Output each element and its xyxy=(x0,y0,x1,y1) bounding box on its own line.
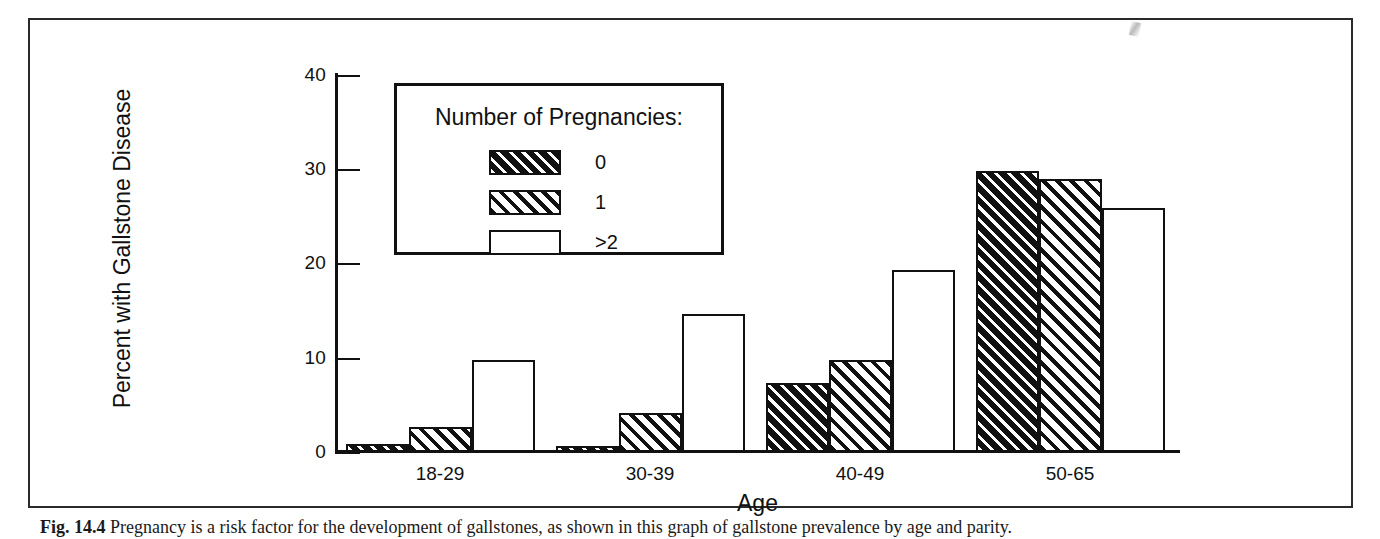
bar-18-29-series-0 xyxy=(346,444,409,452)
figure-caption-number: Fig. 14.4 xyxy=(40,517,106,537)
bar-40-49-series-0 xyxy=(766,383,829,452)
legend-swatch-0 xyxy=(489,150,561,175)
legend-swatch-2 xyxy=(489,230,561,255)
x-axis-title: Age xyxy=(335,490,1180,517)
y-tick-mark-0 xyxy=(338,452,360,454)
y-tick-label-10: 10 xyxy=(280,347,326,369)
x-axis-label-50-65: 50-65 xyxy=(965,463,1175,485)
y-tick-label-30: 30 xyxy=(280,158,326,180)
bar-30-39-series-0 xyxy=(556,446,619,452)
legend-entry-1: 1 xyxy=(489,186,699,218)
bar-30-39-series->2 xyxy=(682,314,745,452)
x-axis-label-30-39: 30-39 xyxy=(545,463,755,485)
y-axis-title: Percent with Gallstone Disease xyxy=(109,54,136,444)
legend-label-1: 1 xyxy=(595,191,606,214)
legend: Number of Pregnancies: 0 1 >2 xyxy=(394,83,724,255)
x-axis-label-40-49: 40-49 xyxy=(755,463,965,485)
y-tick-label-20: 20 xyxy=(280,252,326,274)
legend-label-2: >2 xyxy=(595,231,618,254)
bar-50-65-series->2 xyxy=(1102,208,1165,452)
legend-label-0: 0 xyxy=(595,151,606,174)
y-tick-label-40: 40 xyxy=(280,64,326,86)
bar-18-29-series-1 xyxy=(409,427,472,452)
bar-40-49-series->2 xyxy=(892,270,955,452)
x-axis-label-18-29: 18-29 xyxy=(335,463,545,485)
legend-swatch-1 xyxy=(489,190,561,215)
bar-30-39-series-1 xyxy=(619,413,682,452)
scan-artifact-speck xyxy=(1129,21,1142,37)
figure-frame: 0 10 20 30 40 Percent with Gallstone Dis… xyxy=(28,18,1353,508)
legend-entry-2: >2 xyxy=(489,226,699,258)
bar-18-29-series->2 xyxy=(472,360,535,452)
legend-entry-0: 0 xyxy=(489,146,699,178)
figure-caption-text: Pregnancy is a risk factor for the devel… xyxy=(110,517,1012,537)
bar-50-65-series-1 xyxy=(1039,179,1102,452)
figure-caption: Fig. 14.4 Pregnancy is a risk factor for… xyxy=(40,516,1360,539)
legend-title: Number of Pregnancies: xyxy=(397,104,721,131)
y-tick-label-0: 0 xyxy=(280,441,326,463)
bar-50-65-series-0 xyxy=(976,171,1039,452)
bar-40-49-series-1 xyxy=(829,360,892,452)
